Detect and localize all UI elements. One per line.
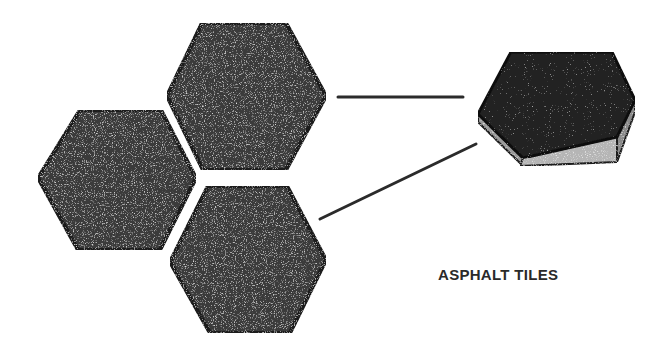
connector-line-bottom	[320, 144, 476, 219]
asphalt-tiles-diagram	[0, 0, 666, 353]
top-hexagon-tile	[167, 23, 326, 170]
left-hexagon-tile	[38, 110, 196, 250]
connector-lines-group	[320, 97, 476, 219]
diagram-caption: ASPHALT TILES	[438, 266, 558, 283]
bottom-hexagon-tile	[170, 186, 326, 333]
tile-3d-view	[478, 52, 635, 166]
flat-tiles-group	[38, 23, 326, 333]
